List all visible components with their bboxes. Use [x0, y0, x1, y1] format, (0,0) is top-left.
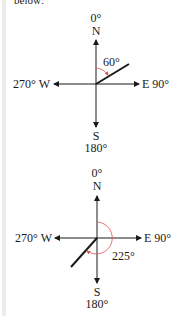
west-label: 270° W — [15, 231, 53, 245]
compass-diagram-60: 0° N S 180° 270° W E 90° 60° — [0, 0, 187, 158]
bearing-angle-label: 60° — [103, 55, 120, 69]
north-label: N — [92, 24, 101, 38]
bearing-arc — [96, 68, 108, 75]
east-label: E 90° — [144, 231, 171, 245]
east-label: E 90° — [142, 77, 169, 91]
south-degree-label: 180° — [86, 297, 109, 311]
south-degree-label: 180° — [85, 141, 108, 155]
compass-diagram-225: 0° N S 180° 270° W E 90° 225° — [0, 155, 187, 316]
north-degree-label: 0° — [91, 11, 102, 25]
north-label: N — [93, 179, 102, 193]
bearing-line — [71, 238, 97, 267]
bearing-angle-label: 225° — [112, 249, 135, 263]
north-degree-label: 0° — [92, 166, 103, 180]
west-label: 270° W — [13, 77, 51, 91]
